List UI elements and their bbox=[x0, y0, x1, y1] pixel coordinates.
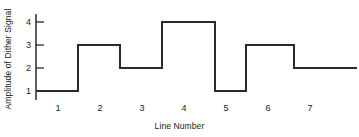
chart-figure: Amplitude of Dither Signal Line Number 4… bbox=[0, 0, 359, 137]
dither-step-line-solid bbox=[36, 22, 351, 91]
chart-plot-area bbox=[0, 0, 359, 137]
